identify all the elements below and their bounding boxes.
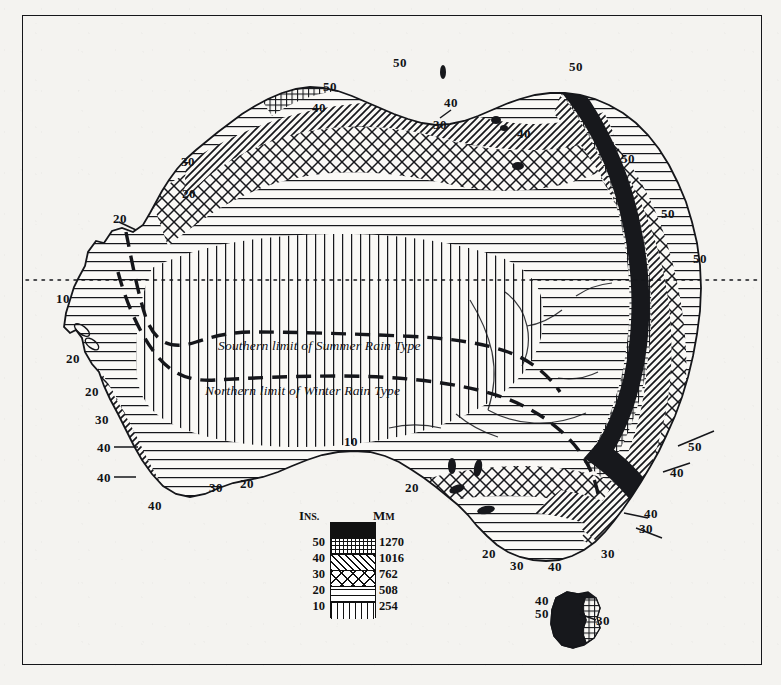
legend-mm-508: 508 — [379, 584, 398, 597]
winter-rain-limit-label: Northern limit of Winter Rain Type — [205, 384, 400, 398]
isohyet-label-50: 50 — [688, 440, 702, 453]
legend-mm-1016: 1016 — [379, 552, 404, 565]
isohyet-label-30: 30 — [596, 614, 610, 627]
isohyet-label-40: 40 — [97, 471, 111, 484]
legend-swatch-30-40 — [331, 555, 375, 571]
page-root: 5050404030405050505030202010202030404040… — [0, 0, 781, 685]
isohyet-label-40: 40 — [148, 499, 162, 512]
tasmania — [551, 592, 600, 648]
isohyet-label-20: 20 — [482, 547, 496, 560]
legend-swatch-40-50 — [331, 539, 375, 555]
isohyet-label-50: 50 — [693, 252, 707, 265]
legend-ins-30: 30 — [297, 568, 325, 581]
isohyet-label-30: 30 — [209, 481, 223, 494]
isohyet-label-50: 50 — [393, 56, 407, 69]
isohyet-label-10: 10 — [56, 292, 70, 305]
isohyet-label-20: 20 — [66, 352, 80, 365]
isohyet-label-30: 30 — [181, 155, 195, 168]
legend-ins-10: 10 — [297, 600, 325, 613]
legend-swatch-10-20 — [331, 587, 375, 603]
legend-mm-254: 254 — [379, 600, 398, 613]
isohyet-label-50: 50 — [323, 80, 337, 93]
isohyet-label-40: 40 — [548, 560, 562, 573]
isohyet-label-10: 10 — [344, 435, 358, 448]
legend-mm-762: 762 — [379, 568, 398, 581]
zone-over-50-topend — [276, 42, 478, 94]
summer-rain-limit-label: Southern limit of Summer Rain Type — [218, 339, 421, 353]
legend-mm-1270: 1270 — [379, 536, 404, 549]
isohyet-label-40: 40 — [97, 441, 111, 454]
rainfall-legend: INS. MM 50 40 30 20 10 1270 1016 762 508… — [295, 508, 410, 620]
legend-swatch-column — [330, 522, 376, 618]
isohyet-label-50: 50 — [661, 207, 675, 220]
isohyet-label-30: 30 — [510, 559, 524, 572]
isohyet-label-30: 30 — [601, 547, 615, 560]
isohyet-label-50: 50 — [535, 607, 549, 620]
isohyet-label-30: 30 — [95, 413, 109, 426]
legend-ins-40: 40 — [297, 552, 325, 565]
legend-ins-20: 20 — [297, 584, 325, 597]
isohyet-label-20: 20 — [405, 481, 419, 494]
legend-swatch-over-50 — [331, 523, 375, 539]
isohyet-label-40: 40 — [312, 101, 326, 114]
isohyet-label-50: 50 — [569, 60, 583, 73]
isohyet-label-40: 40 — [644, 507, 658, 520]
isohyet-label-20: 20 — [85, 385, 99, 398]
isohyet-label-40: 40 — [670, 466, 684, 479]
legend-ins-50: 50 — [297, 536, 325, 549]
legend-header-inches: INS. — [299, 508, 319, 524]
isohyet-label-50: 50 — [621, 152, 635, 165]
isohyet-label-20: 20 — [182, 187, 196, 200]
isohyet-label-40: 40 — [517, 127, 531, 140]
legend-swatch-20-30 — [331, 571, 375, 587]
legend-header-mm: MM — [373, 508, 395, 524]
isohyet-label-20: 20 — [113, 212, 127, 225]
isohyet-label-30: 30 — [639, 522, 653, 535]
legend-swatch-under-10 — [331, 603, 375, 619]
isohyet-label-20: 20 — [240, 477, 254, 490]
isohyet-label-40: 40 — [444, 96, 458, 109]
isohyet-label-30: 30 — [433, 118, 447, 131]
